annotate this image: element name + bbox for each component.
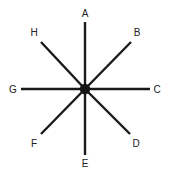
spoke-label-d: D: [132, 139, 139, 149]
spoke-label-b: B: [134, 28, 141, 38]
spoke-line-b: [85, 42, 131, 89]
spoke-line-f: [41, 89, 85, 134]
spoke-lines-layer: [0, 0, 170, 179]
spoke-label-h: H: [30, 28, 37, 38]
spoke-label-c: C: [153, 85, 160, 95]
spoke-line-d: [85, 89, 130, 134]
center-node: [80, 84, 90, 94]
spoke-label-a: A: [82, 9, 89, 19]
spoke-label-g: G: [9, 85, 17, 95]
spoke-diagram: ABCDEFGH: [0, 0, 170, 179]
spoke-label-f: F: [31, 139, 37, 149]
spoke-label-e: E: [82, 159, 89, 169]
spoke-line-h: [41, 42, 85, 89]
